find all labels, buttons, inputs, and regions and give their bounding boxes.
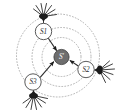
node-s1-label: S1: [40, 28, 47, 36]
node-s2-label: S2: [83, 66, 90, 74]
node-s3[interactable]: S3: [25, 74, 41, 90]
node-s1[interactable]: S1: [35, 23, 51, 39]
diagram-canvas: S1 S2 S3 S': [0, 0, 117, 110]
node-target-label: S': [59, 53, 64, 61]
node-target[interactable]: S': [54, 49, 69, 64]
node-s3-label: S3: [30, 78, 37, 86]
link-s2-to-target: [70, 60, 78, 66]
sensor-network-figure: S1 S2 S3 S': [0, 0, 117, 110]
antenna-s3-icon: [23, 88, 48, 110]
node-s2[interactable]: S2: [78, 61, 94, 77]
antenna-s2-icon: [92, 61, 115, 83]
link-s3-to-target: [40, 62, 54, 78]
